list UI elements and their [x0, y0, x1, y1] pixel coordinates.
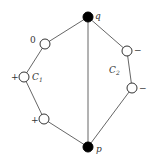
sign-c1-zero: 0: [30, 35, 36, 45]
labels: q p 0 + + − − C1 C2: [11, 11, 147, 154]
node-p: [83, 142, 93, 152]
node-c1-zero: [40, 39, 50, 49]
node-c1-plus-lower: [39, 114, 49, 124]
edge-c1b-c1c: [24, 77, 44, 119]
cycle-diagram: q p 0 + + − − C1 C2: [0, 0, 153, 162]
sign-c1-plus-upper: +: [11, 72, 19, 82]
edge-q-c2a: [88, 17, 127, 51]
label-q: q: [95, 11, 101, 21]
node-q: [83, 12, 93, 22]
node-c2-minus-upper: [122, 46, 132, 56]
sign-c2-minus-upper: −: [134, 45, 142, 55]
edge-q-c1a: [45, 17, 88, 44]
label-cycle-c2: C2: [109, 65, 120, 76]
label-p: p: [96, 144, 102, 154]
node-c1-plus-upper: [19, 72, 29, 82]
edge-c2a-c2b: [127, 51, 132, 88]
edge-c1c-p: [44, 119, 88, 147]
sign-c1-plus-lower: +: [31, 115, 39, 125]
node-c2-minus-lower: [127, 83, 137, 93]
nodes: [19, 12, 137, 152]
edge-c2b-p: [88, 88, 132, 147]
sign-c2-minus-lower: −: [139, 83, 147, 93]
label-cycle-c1: C1: [32, 72, 43, 83]
